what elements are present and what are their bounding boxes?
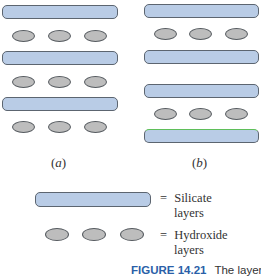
panel-b-label: (b) [192,155,207,171]
silicate-layer [144,4,259,18]
hydroxide-unit [84,121,107,133]
silicate-layer [144,50,259,64]
legend-hydroxide-swatch [45,228,69,241]
hydroxide-unit [84,30,107,42]
hydroxide-unit [12,121,35,133]
legend-hydroxide-swatch [82,228,106,241]
legend-silicate-label: = Silicate layers [160,191,212,221]
hydroxide-unit [48,121,71,133]
silicate-layer [2,97,118,111]
hydroxide-unit [12,30,35,42]
legend-equals: = [160,191,167,205]
panel-a-label: (a) [51,155,66,171]
legend-hydroxide-label: = Hydroxide layers [160,228,228,258]
hydroxide-unit [154,108,177,120]
silicate-layer [2,51,118,65]
hydroxide-unit [48,30,71,42]
caption-text: The layer [214,264,261,276]
silicate-layer [144,84,259,98]
hydroxide-unit [225,28,248,40]
hydroxide-unit [48,76,71,88]
hydroxide-unit [189,28,212,40]
hydroxide-unit [154,28,177,40]
hydroxide-unit [12,76,35,88]
legend-equals: = [160,228,167,242]
silicate-layer [144,129,259,143]
hydroxide-unit [84,76,107,88]
hydroxide-unit [225,108,248,120]
silicate-layer [2,5,118,19]
legend-hydroxide-swatch [120,228,144,241]
legend-silicate-swatch [35,192,151,207]
figure-caption: FIGURE 14.21The layer [131,264,261,276]
figure-number: FIGURE 14.21 [131,264,206,276]
hydroxide-unit [189,108,212,120]
